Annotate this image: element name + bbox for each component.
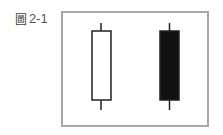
candle-black [160, 23, 179, 110]
candle-body-filled [160, 31, 179, 100]
candle-body-hollow [92, 31, 111, 100]
candle-white [92, 23, 111, 110]
candlestick-diagram [0, 0, 223, 135]
